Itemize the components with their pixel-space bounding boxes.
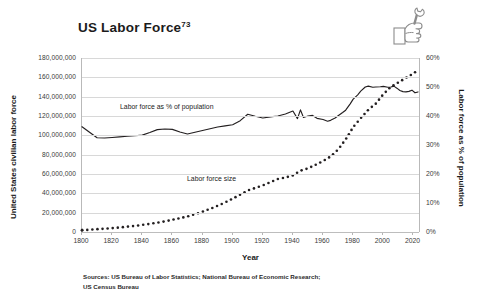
y-axis-right-tick-label: 60% (426, 54, 440, 61)
data-point (206, 209, 209, 212)
data-point (272, 180, 275, 183)
y-axis-left-title: United States civilian labor force (8, 70, 20, 244)
data-point (248, 189, 251, 192)
data-point (216, 205, 219, 208)
series-canvas (82, 58, 421, 232)
data-point (314, 163, 317, 166)
data-point (262, 184, 265, 187)
data-point (106, 227, 109, 230)
data-point (277, 178, 280, 181)
y-axis-right-tick-label: 10% (426, 199, 440, 206)
data-point (111, 227, 114, 230)
data-point (116, 226, 119, 229)
gridline (82, 97, 419, 98)
y-axis-left-tick-label: 20,000,000 (42, 209, 76, 216)
gridline (82, 77, 419, 78)
y-axis-right-tick-label: 20% (426, 170, 440, 177)
x-axis-tick-label: 2020 (392, 237, 432, 244)
y-axis-right-tick-label: 50% (426, 83, 440, 90)
chart-title-text: US Labor Force (78, 20, 181, 35)
data-point (152, 222, 155, 225)
y-axis-left-tick-label: 120,000,000 (38, 112, 76, 119)
data-point (310, 166, 313, 169)
data-point (342, 141, 345, 144)
y-axis-right-tick-label: 0% (426, 228, 436, 235)
data-point (300, 169, 303, 172)
x-axis-title: Year (81, 253, 420, 262)
data-point (392, 84, 395, 87)
data-point (258, 185, 261, 188)
y-axis-right-tick-label: 40% (426, 112, 440, 119)
data-point (211, 207, 214, 210)
gridline (82, 193, 419, 194)
hand-wrench-icon (392, 6, 440, 50)
gridline (82, 213, 419, 214)
data-point (410, 74, 413, 77)
y-axis-left-tick-label: 60,000,000 (42, 170, 76, 177)
annotation-labor-force-size: Labor force size (187, 175, 236, 182)
series-labor-force-size (81, 71, 417, 231)
data-point (287, 176, 290, 179)
data-point (350, 129, 353, 132)
data-point (177, 217, 180, 220)
data-point (353, 124, 356, 127)
data-point (192, 213, 195, 216)
y-axis-left-tick-label: 140,000,000 (38, 93, 76, 100)
data-point (142, 224, 145, 227)
data-point (157, 221, 160, 224)
data-point (91, 228, 94, 231)
data-point (378, 98, 381, 101)
data-point (363, 113, 366, 116)
gridline (82, 174, 419, 175)
data-point (132, 225, 135, 228)
data-point (336, 149, 339, 152)
data-point (167, 219, 170, 222)
data-point (187, 215, 190, 218)
data-point (323, 159, 326, 162)
series-pct-of-population (82, 86, 418, 138)
y-axis-left-tick-label: 0 (72, 228, 76, 235)
data-point (162, 220, 165, 223)
data-point (127, 225, 130, 228)
data-point (137, 224, 140, 227)
data-point (305, 168, 308, 171)
data-point (220, 203, 223, 206)
y-axis-left-tick-label: 80,000,000 (42, 151, 76, 158)
y-axis-left-tick-label: 100,000,000 (38, 131, 76, 138)
gridline (82, 155, 419, 156)
data-point (96, 228, 99, 231)
source-note-line-2: US Census Bureau (83, 282, 383, 292)
y-axis-left-tick-label: 40,000,000 (42, 189, 76, 196)
source-note-line-1: Sources: US Bureau of Labor Statistics; … (83, 272, 383, 282)
plot-area (81, 58, 420, 232)
data-point (375, 102, 378, 105)
data-point (282, 177, 285, 180)
data-point (388, 87, 391, 90)
y-axis-right-title: Labor force as % of population (455, 68, 467, 228)
data-point (182, 216, 185, 219)
data-point (253, 187, 256, 190)
data-point (122, 226, 125, 229)
data-point (225, 200, 228, 203)
annotation-pct-of-population: Labor force as % of population (120, 103, 213, 110)
source-note: Sources: US Bureau of Labor Statistics; … (83, 272, 383, 291)
page-title: US Labor Force73 (78, 20, 191, 35)
y-axis-left-tick-label: 160,000,000 (38, 73, 76, 80)
y-axis-right-tick-label: 30% (426, 141, 440, 148)
data-point (384, 91, 387, 94)
data-point (371, 106, 374, 109)
data-point (397, 81, 400, 84)
data-point (319, 161, 322, 164)
data-point (86, 229, 89, 232)
chart-figure: US Labor Force73 United States civilian … (0, 0, 485, 299)
data-point (345, 137, 348, 140)
data-point (147, 223, 150, 226)
y-axis-left-tick-label: 180,000,000 (38, 54, 76, 61)
chart-title-superscript: 73 (181, 20, 190, 29)
gridline (82, 232, 419, 233)
data-point (401, 79, 404, 82)
data-point (267, 182, 270, 185)
data-point (328, 156, 331, 159)
data-point (230, 198, 233, 201)
data-point (101, 228, 104, 231)
